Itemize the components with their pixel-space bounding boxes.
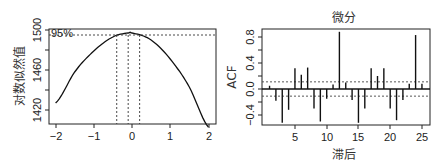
x-axis-label: 滞后 [332,148,356,162]
acf-bars [270,32,422,123]
right-plot-frame [262,29,430,125]
y-tick-label: 0.0 [244,81,256,96]
x-tick-label: 15 [352,131,364,143]
x-tick-label: 10 [321,131,333,143]
x-tick-label: 1 [167,130,173,142]
x-tick-label: 0 [129,130,135,142]
y-tick-label: 1500 [31,18,43,42]
acf-plot: 微分 5 10 15 20 25 滞后 0.8 0.4 [225,11,430,162]
left-plot-frame [49,29,216,124]
loglik-plot: 95% −2 −1 0 1 2 1500 1460 1420 对数似然值 [12,18,216,142]
x-tick-label: 2 [206,130,212,142]
x-tick-label: 5 [292,131,298,143]
y-tick-label: 1460 [31,58,43,82]
y-tick-label: 0.8 [244,29,256,44]
y-tick-label: 1420 [31,98,43,122]
figure: 95% −2 −1 0 1 2 1500 1460 1420 对数似然值 微分 [0,0,443,166]
x-tick-label: 25 [416,131,428,143]
x-tick-label: 20 [384,131,396,143]
y-tick-label: 0.4 [244,55,256,70]
loglik-curve [56,32,209,127]
ci-label: 95% [51,27,73,39]
x-tick-label: −2 [50,130,63,142]
acf-title: 微分 [332,11,356,25]
y-axis-label: ACF [225,65,239,88]
y-axis-label: 对数似然值 [12,46,27,106]
y-tick-label: −0.4 [244,104,256,126]
x-tick-label: −1 [88,130,101,142]
